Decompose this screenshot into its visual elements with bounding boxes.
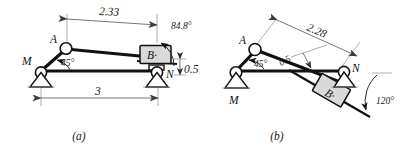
support-triangle-a-N <box>146 73 168 88</box>
joint-label-a-A: A <box>49 33 58 45</box>
panel-caption-b: (b) <box>270 130 284 143</box>
dimension-line-b-05 <box>303 53 311 68</box>
joint-label-a-N: N <box>165 68 175 80</box>
pin-joint-a-A <box>60 43 72 55</box>
dimension-line-a-233 <box>67 19 157 25</box>
support-triangle-b-M <box>225 73 248 89</box>
block-label-a-B: B· <box>147 49 157 61</box>
support-triangle-a-M <box>30 73 52 88</box>
figure-root: 2.33 3 0.5 B· N M A <box>0 0 416 158</box>
dimension-label-a-3: 3 <box>94 85 101 97</box>
coupler-link-a-AB <box>66 49 150 57</box>
pin-joint-b-A <box>249 44 261 56</box>
joint-label-b-N: N <box>351 62 361 74</box>
dimension-label-a-05: 0.5 <box>184 63 199 75</box>
joint-label-b-A: A <box>238 34 247 46</box>
panel-b: 2.28 0.5 B· N M A 45° <box>222 18 394 143</box>
joint-label-b-M: M <box>228 94 240 106</box>
dimension-label-a-233: 2.33 <box>99 5 120 18</box>
ext-line-b-05-upper <box>291 45 327 57</box>
dimension-label-b-228: 2.28 <box>305 21 328 40</box>
angle-label-a-848: 84.8° <box>171 21 192 31</box>
mechanism-figure: 2.33 3 0.5 B· N M A <box>0 0 416 158</box>
joint-label-a-M: M <box>21 55 33 67</box>
angle-label-b-45: 45° <box>254 59 268 69</box>
angle-label-b-120: 120° <box>376 96 394 106</box>
panel-a: 2.33 3 0.5 B· N M A <box>21 5 199 143</box>
angle-label-a-45: 45° <box>61 58 75 68</box>
panel-caption-a: (a) <box>72 130 86 143</box>
